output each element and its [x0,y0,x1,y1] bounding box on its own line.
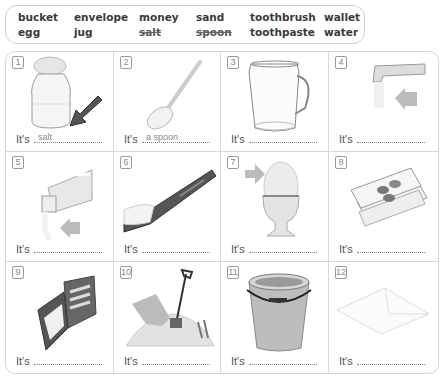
egg-in-cup-icon [241,156,321,242]
word-toothpaste: toothpaste [250,26,315,38]
item-number: 11 [227,266,239,279]
item-6: 6 It's [114,152,221,262]
answer-line[interactable] [249,252,317,253]
word-sand: sand [196,11,224,23]
answer-text: salt [38,132,52,142]
item-4: 4 It's [329,52,438,152]
money-icon [337,162,433,242]
word-spoon-crossed: spoon [196,26,232,38]
answer-line[interactable] [249,364,317,365]
item-12: 12 It's [329,262,438,373]
prompt-text: It's [16,133,30,145]
answer-line[interactable] [357,142,425,143]
item-10: 10 It's [114,262,221,373]
answer-line[interactable] [34,142,102,143]
word-toothbrush: toothbrush [250,11,316,23]
prompt-text: It's [16,243,30,255]
sand-with-spade-icon [122,266,218,352]
answer-line[interactable] [357,364,425,365]
item-8: 8 It's [329,152,438,262]
word-bank: bucket egg envelope jug money salt sand … [5,5,365,44]
item-number: 3 [227,56,239,69]
word-salt-crossed: salt [139,26,161,38]
salt-shaker-icon [20,56,108,132]
word-money: money [139,11,179,23]
answer-line[interactable] [142,142,210,143]
item-9: 9 It's [6,262,114,373]
item-2: 2 It's a spoon [114,52,221,152]
toothpaste-tube-icon [20,162,108,242]
answer-text: a spoon [146,132,178,142]
item-1: 1 It's salt [6,52,114,152]
picture-grid: 1 It's salt 2 It's a spoon 3 It's [5,51,439,374]
answer-line[interactable] [142,252,210,253]
item-5: 5 It's [6,152,114,262]
word-jug: jug [74,26,93,38]
word-envelope: envelope [74,11,128,23]
prompt-text: It's [339,133,353,145]
word-bucket: bucket [18,11,58,23]
prompt-text: It's [339,355,353,367]
answer-line[interactable] [249,142,317,143]
item-number: 9 [12,266,24,279]
word-wallet: wallet [324,11,360,23]
toothbrush-icon [120,162,220,242]
tap-water-icon [343,56,433,132]
answer-line[interactable] [34,252,102,253]
prompt-text: It's [124,243,138,255]
prompt-text: It's [339,243,353,255]
bucket-icon [239,268,319,352]
spoon-icon [128,56,216,132]
prompt-text: It's [231,243,245,255]
prompt-text: It's [231,355,245,367]
item-11: 11 It's [221,262,329,373]
jug-icon [239,58,327,134]
prompt-text: It's [16,355,30,367]
prompt-text: It's [231,133,245,145]
answer-line[interactable] [142,364,210,365]
answer-line[interactable] [357,252,425,253]
word-water: water [324,26,358,38]
envelope-icon [333,276,433,346]
prompt-text: It's [124,355,138,367]
prompt-text: It's [124,133,138,145]
item-3: 3 It's [221,52,329,152]
item-7: 7 It's [221,152,329,262]
answer-line[interactable] [34,364,102,365]
wallet-icon [24,270,104,354]
word-egg: egg [18,26,40,38]
item-number: 7 [227,156,239,169]
